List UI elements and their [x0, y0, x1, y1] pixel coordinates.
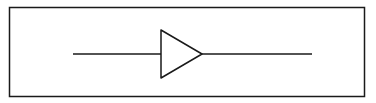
amplifier-triangle-icon [161, 30, 202, 78]
amplifier-diagram [0, 0, 376, 103]
